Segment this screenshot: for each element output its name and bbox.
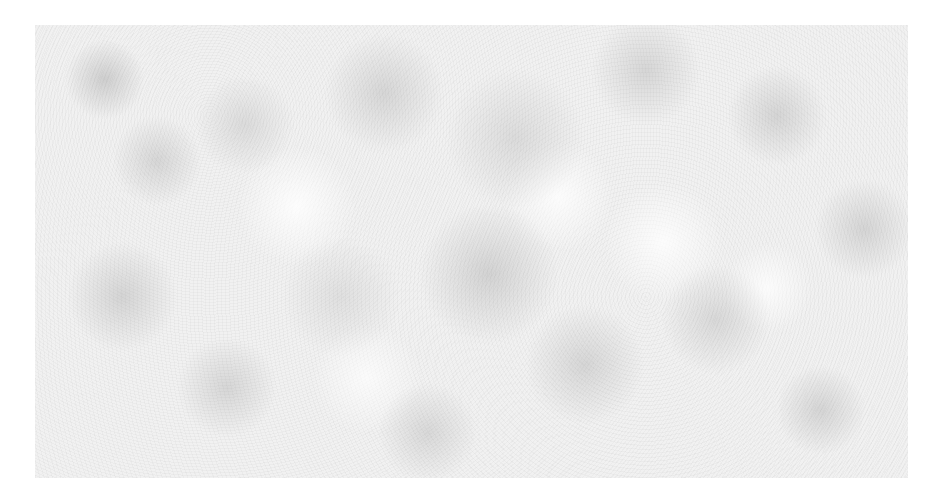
canvas: [0, 0, 928, 503]
noise-texture-panel: [35, 25, 908, 478]
